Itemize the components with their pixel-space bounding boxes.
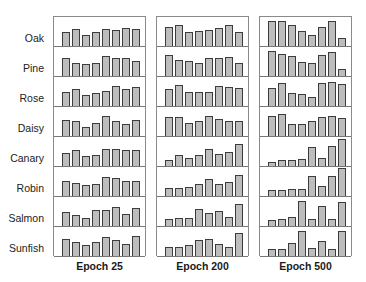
bar (92, 210, 100, 226)
bar (235, 63, 243, 76)
bar (215, 28, 223, 46)
bar (205, 149, 213, 166)
bar (185, 245, 193, 256)
bar (72, 29, 80, 46)
bar (328, 116, 336, 136)
cell-daisy (157, 107, 248, 137)
bar (268, 51, 276, 76)
bar (102, 29, 110, 46)
bar (298, 31, 306, 46)
bar (225, 217, 233, 226)
cell-salmon (260, 197, 351, 227)
row-label-robin: Robin (0, 182, 44, 194)
row-label-daisy: Daisy (0, 122, 44, 134)
row-label-oak: Oak (0, 32, 44, 44)
bar (225, 152, 233, 166)
bar (338, 69, 346, 76)
bar (205, 213, 213, 226)
bar (132, 61, 140, 76)
bar (62, 32, 70, 46)
bar (235, 32, 243, 46)
bar (92, 123, 100, 136)
bar (122, 89, 130, 106)
bar (338, 118, 346, 136)
bar (82, 95, 90, 106)
bar (215, 211, 223, 226)
bar (318, 117, 326, 136)
bar (82, 127, 90, 136)
bar (308, 147, 316, 166)
bar (82, 35, 90, 46)
bar (308, 219, 316, 226)
bar (308, 176, 316, 196)
bar (328, 52, 336, 76)
bar (225, 121, 233, 136)
row-label-salmon: Salmon (0, 212, 44, 224)
bar (175, 85, 183, 106)
bar (215, 154, 223, 166)
bar (195, 184, 203, 196)
bar (112, 240, 120, 256)
bar (185, 32, 193, 46)
bar (102, 116, 110, 136)
bar (338, 202, 346, 226)
bar (102, 91, 110, 106)
bar (185, 61, 193, 76)
bar (72, 121, 80, 136)
bar (205, 30, 213, 46)
bar (195, 209, 203, 226)
bar (235, 233, 243, 256)
bar (278, 114, 286, 136)
bar (318, 186, 326, 196)
bar (112, 58, 120, 76)
bar (185, 158, 193, 166)
bar (205, 92, 213, 106)
bar (122, 58, 130, 76)
bar (112, 121, 120, 136)
bar (328, 219, 336, 226)
bar (318, 158, 326, 166)
row-label-rose: Rose (0, 92, 44, 104)
bar (268, 162, 276, 166)
bar (112, 86, 120, 106)
bar (268, 249, 276, 256)
bar (82, 218, 90, 226)
bar (268, 116, 276, 136)
bar (165, 188, 173, 196)
bar (132, 150, 140, 166)
bar (308, 97, 316, 106)
bar (72, 215, 80, 226)
cell-sunfish (157, 227, 248, 257)
bar (215, 244, 223, 256)
bar (195, 92, 203, 106)
cell-oak (157, 17, 248, 47)
bar (288, 56, 296, 76)
cell-rose (54, 77, 145, 107)
bar (92, 63, 100, 76)
bar (215, 184, 223, 196)
bar (298, 62, 306, 76)
cell-canary (260, 137, 351, 167)
cell-oak (54, 17, 145, 47)
bar (92, 242, 100, 256)
cell-robin (260, 167, 351, 197)
bar (318, 83, 326, 106)
row-label-canary: Canary (0, 152, 44, 164)
bar (185, 123, 193, 136)
bar (278, 160, 286, 166)
bar (278, 54, 286, 76)
bar (175, 247, 183, 256)
bar (175, 117, 183, 136)
bar (308, 248, 316, 256)
cell-canary (157, 137, 248, 167)
bar (175, 218, 183, 226)
bar (328, 21, 336, 46)
bar (62, 212, 70, 226)
cell-daisy (54, 107, 145, 137)
bar (268, 220, 276, 226)
bar (122, 244, 130, 256)
bar (132, 181, 140, 196)
bar (132, 87, 140, 106)
bar (92, 155, 100, 166)
bar (308, 63, 316, 76)
